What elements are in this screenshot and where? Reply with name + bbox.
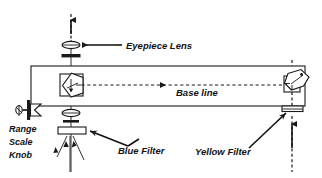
blue-filter-callout [90, 131, 139, 146]
eyepiece-lens-label: Eyepiece Lens [126, 40, 192, 51]
blue-filter-plate [58, 127, 86, 134]
objective-optics-assembly [62, 109, 80, 122]
blue-filter-label: Blue Filter [118, 145, 166, 156]
yellow-filter-label: Yellow Filter [195, 146, 252, 157]
base-line-label: Base line [176, 87, 218, 98]
range-knob-label-line2: Scale [9, 137, 33, 147]
range-knob-label-line3: Knob [9, 150, 32, 160]
diagram-canvas: Eyepiece Lens [0, 0, 322, 178]
yellow-filter-callout [249, 113, 286, 148]
light-ray-bundle [53, 136, 84, 172]
range-knob-label-line1: Range [9, 124, 37, 134]
rangefinder-diagram: Eyepiece Lens [0, 0, 322, 178]
left-pentaprism-assembly [60, 73, 83, 97]
yellow-filter-plate [282, 106, 303, 112]
